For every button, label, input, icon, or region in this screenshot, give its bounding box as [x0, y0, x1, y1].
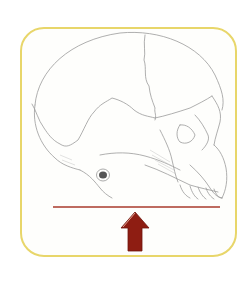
- arrow-up-icon: [121, 212, 149, 251]
- skull-illustration: [0, 0, 249, 291]
- ear-canal: [99, 172, 107, 179]
